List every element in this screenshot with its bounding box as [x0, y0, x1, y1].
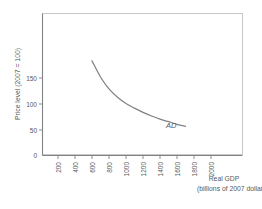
ad-curve-line: [92, 61, 186, 127]
x-tick-label-1000: 1000: [123, 162, 130, 177]
aggregate-demand-chart: 150 100 50 0 Price level (2007 = 100) 20…: [0, 0, 262, 209]
x-tick-labels: 200 400 600 800 1000 1200 1400 1600 1800…: [55, 162, 215, 177]
y-tick-label-0: 0: [33, 152, 37, 159]
x-tick-label-1600: 1600: [174, 162, 181, 177]
y-axis-title: Price level (2007 = 100): [14, 48, 22, 120]
chart-figure: 150 100 50 0 Price level (2007 = 100) 20…: [0, 0, 262, 209]
y-tick-label-50: 50: [30, 127, 38, 134]
x-axis-title: Real GDP: [209, 175, 240, 182]
x-tick-label-200: 200: [55, 162, 62, 173]
y-tick-label-150: 150: [26, 75, 37, 82]
x-tick-label-1400: 1400: [157, 162, 164, 177]
x-tick-label-800: 800: [106, 162, 113, 173]
y-tick-labels: 150 100 50 0: [26, 75, 37, 160]
ad-curve-label: AD: [165, 121, 177, 130]
x-tick-label-600: 600: [89, 162, 96, 173]
x-tick-label-1200: 1200: [140, 162, 147, 177]
x-tick-label-400: 400: [72, 162, 79, 173]
x-tick-label-1800: 1800: [191, 162, 198, 177]
y-tick-label-100: 100: [26, 101, 37, 108]
plot-frame: [43, 14, 243, 155]
x-axis-subtitle: (billions of 2007 dollars): [197, 185, 262, 193]
